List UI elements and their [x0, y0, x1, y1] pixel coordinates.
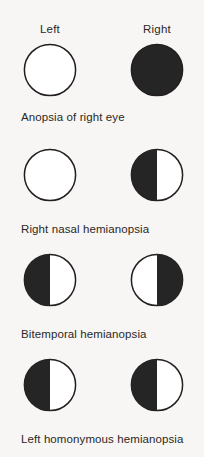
row-caption: Bitemporal hemianopsia	[21, 327, 201, 342]
eye-pair-row	[0, 148, 204, 202]
eye-pair-row	[0, 253, 204, 307]
right-eye-field	[130, 148, 184, 202]
column-headers: Left Right	[0, 22, 204, 40]
right-eye-field	[130, 358, 184, 412]
left-eye-field	[23, 253, 77, 307]
left-eye-field	[23, 358, 77, 412]
column-header-right: Right	[122, 22, 192, 36]
row-caption: Left homonymous hemianopsia	[21, 432, 201, 447]
row-caption: Right nasal hemianopsia	[21, 222, 201, 237]
column-header-left: Left	[15, 22, 85, 36]
right-eye-field	[130, 253, 184, 307]
visual-field-defects-diagram: Left Right Anopsia of right eye	[0, 0, 204, 457]
left-eye-field	[23, 43, 77, 97]
left-eye-field	[23, 148, 77, 202]
right-eye-field	[130, 43, 184, 97]
eye-pair-row	[0, 358, 204, 412]
row-caption: Anopsia of right eye	[21, 110, 201, 125]
eye-pair-row	[0, 43, 204, 97]
